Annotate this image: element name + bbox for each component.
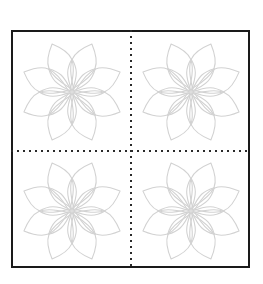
pattern-canvas bbox=[0, 0, 263, 284]
pattern-artwork bbox=[0, 0, 263, 284]
